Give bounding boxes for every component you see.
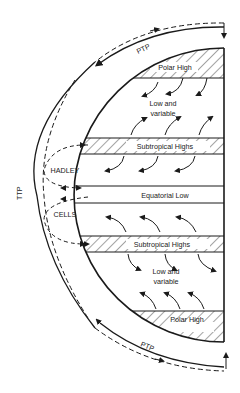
equatorial-low-label: Equatorial Low	[141, 191, 189, 200]
ttp-label: TTP	[15, 186, 24, 200]
circulation-diagram: Polar High Low and variable Subtropical …	[0, 0, 240, 393]
subtropical-highs-south-label: Subtropical Highs	[134, 240, 191, 249]
ptp-south-label: PTP	[139, 340, 156, 354]
ttp-arc	[34, 62, 95, 328]
low-variable-south-label-1: Low and	[152, 267, 179, 276]
cells-label: CELLS	[54, 210, 77, 219]
hadley-label: HADLEY	[51, 166, 80, 175]
low-variable-south-label-2: variable	[153, 277, 178, 286]
polar-high-south-label: Polar High	[170, 315, 204, 324]
subtropical-highs-north-label: Subtropical Highs	[137, 142, 194, 151]
hadley-arrowheads	[60, 142, 86, 247]
low-variable-north-label-2: variable	[150, 109, 175, 118]
polar-high-north-label: Polar High	[158, 63, 192, 72]
hadley-cells	[44, 145, 88, 244]
ptp-north-label: PTP	[135, 42, 152, 56]
low-variable-north-label-1: Low and	[149, 99, 176, 108]
